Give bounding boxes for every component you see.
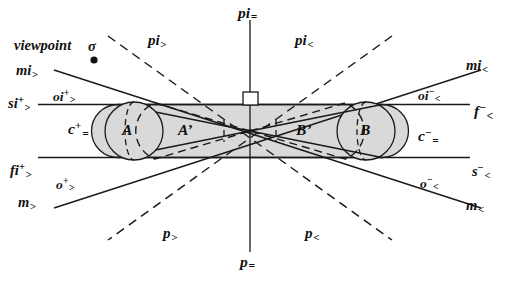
sigma-symbol: σ bbox=[88, 39, 96, 54]
region-c-minus-eq: c−= bbox=[418, 127, 439, 147]
region-pi-lt: pi< bbox=[295, 33, 314, 50]
label-circle-b: B bbox=[360, 122, 370, 138]
ray-oi-plus-gt: oi+> bbox=[53, 88, 76, 105]
aspect-diagram-figure: viewpoint σ pi= p= pi> pi< p> p< c+= c−=… bbox=[0, 0, 509, 286]
ray-mi-gt: mi> bbox=[16, 63, 38, 80]
region-pi-gt: pi> bbox=[148, 33, 167, 50]
ray-si-plus-gt: si+> bbox=[8, 95, 31, 113]
ray-o-plus-gt: o+> bbox=[56, 176, 75, 193]
marker-rectangle-on-axis bbox=[243, 92, 258, 105]
label-circle-a: A bbox=[122, 122, 132, 138]
label-ellipse-b-prime: B’ bbox=[296, 122, 312, 138]
circle-a-shape bbox=[105, 102, 163, 160]
convergence-point bbox=[248, 129, 252, 133]
ray-fi-plus-gt: fi+> bbox=[10, 162, 32, 180]
ray-o-minus-lt: o−< bbox=[420, 175, 439, 192]
ray-m-lt: m< bbox=[466, 198, 484, 215]
viewpoint-label: viewpoint bbox=[14, 38, 71, 53]
ray-oi-minus-lt: oi−< bbox=[418, 87, 441, 104]
label-ellipse-a-prime: A’ bbox=[178, 122, 192, 138]
ray-s-minus-lt: s−< bbox=[472, 163, 491, 181]
region-p-gt: p> bbox=[163, 226, 177, 243]
region-c-plus-eq: c+= bbox=[68, 120, 89, 140]
axis-label-p-eq: p= bbox=[240, 254, 255, 273]
ray-mi-lt: mi< bbox=[466, 58, 488, 75]
viewpoint-dot bbox=[90, 56, 97, 63]
ray-f-minus-lt: f−< bbox=[474, 102, 493, 122]
ray-m-gt: m> bbox=[18, 195, 36, 212]
axis-label-pi-eq: pi= bbox=[238, 5, 257, 24]
region-p-lt: p< bbox=[305, 226, 319, 243]
